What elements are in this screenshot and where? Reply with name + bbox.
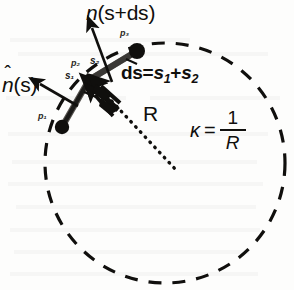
point-p3-dot [129,43,145,59]
n-arg-left: (s) [13,73,37,96]
n-hat-symbol-left: ˆn [2,74,13,95]
ds-term2: s [181,62,191,83]
n-hat-symbol-top: ˆn [86,2,97,23]
ds-lhs: ds [121,62,143,83]
normal-at-s-plus-ds-label: ˆn(s+ds) [86,2,155,23]
point-p3-label: p₃ [120,29,129,38]
normal-at-s-label: ˆn(s) [2,74,37,95]
ds-term1: s [153,62,163,83]
ds-term2-sub: 2 [191,72,198,86]
fraction-denominator: R [224,133,242,152]
curvature-equation: κ = 1 R [190,108,246,152]
point-p1-label: p₁ [38,112,47,121]
one-over-r-fraction: 1 R [220,108,246,152]
point-p1-dot [55,120,69,134]
kappa-equals: = [204,120,216,140]
radius-label: R [143,103,158,124]
point-p2-label: p₂ [71,59,80,68]
figure-background [0,0,294,290]
kappa-symbol: κ [190,120,200,140]
segment-s1-label: s₁ [65,71,74,81]
hat-accent-top: ˆ [89,0,95,11]
ds-plus: + [170,62,181,83]
hat-accent-left: ˆ [5,64,11,83]
n-arg-top: (s+ds) [97,1,155,24]
ds-equals: = [143,62,154,83]
segment-s2-label: s₂ [90,56,99,66]
point-p2-dot [83,74,95,86]
curvature-figure [0,0,294,290]
arc-length-equation: ds=s1+s2 [121,63,198,85]
fraction-numerator: 1 [225,108,240,127]
